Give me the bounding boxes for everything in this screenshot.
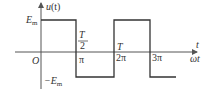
- two-pi-label: 2π: [116, 52, 126, 63]
- t-half-numerator: T: [79, 29, 86, 40]
- three-pi-label: 3π: [152, 52, 162, 63]
- x-axis-t-label: t: [196, 39, 199, 50]
- square-wave-diagram: u(t) Em −Em O T 2 π T 2π 3π t ωt: [0, 0, 212, 92]
- origin-label: O: [32, 55, 39, 66]
- t-half-denominator: 2: [80, 40, 85, 51]
- t-label: T: [117, 41, 124, 52]
- x-axis-wt-label: ωt: [190, 53, 200, 64]
- y-axis-label: u(t): [46, 1, 60, 13]
- em-label: Em: [25, 14, 38, 27]
- square-wave: [41, 20, 176, 77]
- pi-label: π: [79, 54, 84, 65]
- neg-em-label: −Em: [44, 75, 63, 88]
